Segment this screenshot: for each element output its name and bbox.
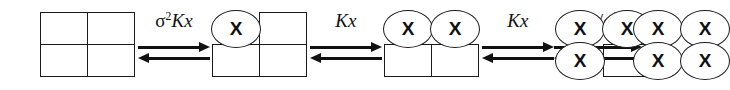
reverse-arrow <box>482 53 554 63</box>
bound-ligand-label: X <box>699 51 712 70</box>
site-top-right-empty <box>259 12 307 45</box>
rate-constant-body: Kx <box>335 10 356 31</box>
site-bottom-right-empty <box>431 44 479 77</box>
site-top-left-bound: X <box>211 10 261 48</box>
reaction-second-binding-step: Kx <box>310 0 382 90</box>
bound-ligand-label: X <box>402 19 415 38</box>
sigma-symbol: σ <box>155 10 165 31</box>
equilibrium-arrows <box>310 42 382 66</box>
forward-arrow <box>138 42 210 52</box>
reaction-scheme-diagram: σ2Kx X Kx <box>0 0 730 90</box>
reverse-arrow-shaft <box>319 57 382 60</box>
bound-ligand-label: X <box>574 19 587 38</box>
site-top-right-empty <box>87 12 135 45</box>
forward-arrow-head-icon <box>199 42 210 52</box>
bound-ligand-label: X <box>652 51 665 70</box>
rate-constant-body: Kx <box>507 10 528 31</box>
equilibrium-arrows <box>138 42 210 66</box>
forward-arrow-shaft <box>482 46 545 49</box>
forward-arrow-head-icon <box>543 42 554 52</box>
site-bottom-left-empty <box>212 44 260 77</box>
bound-ligand-label: X <box>699 19 712 38</box>
reverse-arrow-shaft <box>147 57 210 60</box>
bound-ligand-label: X <box>230 19 243 38</box>
site-bottom-left-empty <box>384 44 432 77</box>
site-top-left-bound: X <box>383 10 433 48</box>
bound-ligand-label: X <box>574 51 587 70</box>
site-bottom-right-empty <box>87 44 135 77</box>
reverse-arrow <box>310 53 382 63</box>
equilibrium-arrows <box>482 42 554 66</box>
lattice-grid: X X <box>384 12 480 78</box>
state-fully-bound-lattice: X X X X <box>634 0 730 90</box>
reverse-arrow-head-icon <box>138 53 149 63</box>
rate-constant-label-0: σ2Kx <box>138 10 210 32</box>
reverse-arrow <box>138 53 210 63</box>
reaction-third-binding-step: Kx <box>482 0 554 90</box>
site-bottom-left-empty <box>40 44 88 77</box>
forward-arrow <box>482 42 554 52</box>
state-fully-unbound-lattice <box>40 0 136 90</box>
site-bottom-right-empty <box>259 44 307 77</box>
reverse-arrow-head-icon <box>310 53 321 63</box>
forward-arrow-shaft <box>138 46 201 49</box>
state-doubly-bound-lattice: X X <box>384 0 480 90</box>
forward-arrow <box>310 42 382 52</box>
reverse-arrow-shaft <box>491 57 554 60</box>
forward-arrow-head-icon <box>371 42 382 52</box>
bound-ligand-label: X <box>652 19 665 38</box>
lattice-grid: X X X X <box>634 12 730 78</box>
lattice-grid: X <box>212 12 308 78</box>
rate-constant-label-2: Kx <box>482 10 554 32</box>
site-top-right-bound: X <box>430 10 480 48</box>
bound-ligand-label: X <box>621 19 634 38</box>
rate-constant-body: Kx <box>172 10 193 31</box>
site-top-left-empty <box>40 12 88 45</box>
forward-arrow-shaft <box>310 46 373 49</box>
site-bottom-right-bound: X <box>680 42 730 80</box>
site-bottom-left-bound: X <box>633 42 683 80</box>
reaction-first-binding-step: σ2Kx <box>138 0 210 90</box>
lattice-grid <box>40 12 136 78</box>
site-bottom-left-bound: X <box>555 42 605 80</box>
state-singly-bound-lattice: X <box>212 0 308 90</box>
rate-constant-label-1: Kx <box>310 10 382 32</box>
reverse-arrow-head-icon <box>482 53 493 63</box>
bound-ligand-label: X <box>449 19 462 38</box>
